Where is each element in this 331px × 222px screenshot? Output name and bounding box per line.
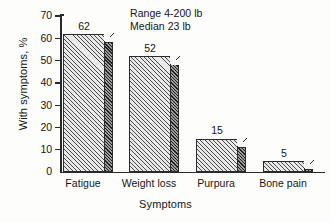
bar-purpura-side (238, 147, 246, 172)
bar-fatigue-bevel (104, 33, 114, 42)
bar-value-weight-loss: 52 (129, 43, 171, 54)
bar-purpura-front (196, 139, 238, 172)
bar-weight-loss[interactable] (129, 56, 179, 172)
y-axis-label-30: 30 (28, 100, 52, 111)
y-axis-label-60: 60 (28, 33, 52, 44)
bar-value-purpura: 15 (196, 125, 238, 136)
bar-fatigue[interactable] (63, 34, 113, 172)
y-axis-label-70: 70 (28, 10, 52, 21)
plot-area: 62 52 15 5 (61, 16, 322, 172)
y-axis-title: With symptoms, % (17, 14, 29, 154)
bar-purpura-bevel (237, 138, 247, 147)
y-axis-label-40: 40 (28, 77, 52, 88)
y-axis-label-10: 10 (28, 144, 52, 155)
y-axis-label-50: 50 (28, 55, 52, 66)
bar-weight-loss-side (171, 64, 179, 172)
bar-value-bone-pain: 5 (263, 148, 305, 159)
bar-fatigue-side (105, 42, 113, 172)
bar-weight-loss-front (129, 56, 171, 172)
bar-bone-pain[interactable] (263, 161, 313, 172)
x-axis-title: Symptoms (0, 198, 331, 210)
bar-chart-figure: 70 60 50 40 30 20 10 0 With symptoms, % … (0, 0, 331, 222)
y-axis-label-0: 0 (28, 166, 52, 177)
bar-fatigue-front (63, 34, 105, 172)
x-axis-category-bone-pain: Bone pain (238, 177, 328, 189)
bar-value-fatigue: 62 (63, 21, 105, 32)
bar-bone-pain-bevel (304, 160, 314, 169)
bar-weight-loss-bevel (170, 56, 180, 65)
bar-purpura[interactable] (196, 139, 246, 172)
bar-bone-pain-front (263, 161, 305, 172)
y-axis-label-20: 20 (28, 122, 52, 133)
